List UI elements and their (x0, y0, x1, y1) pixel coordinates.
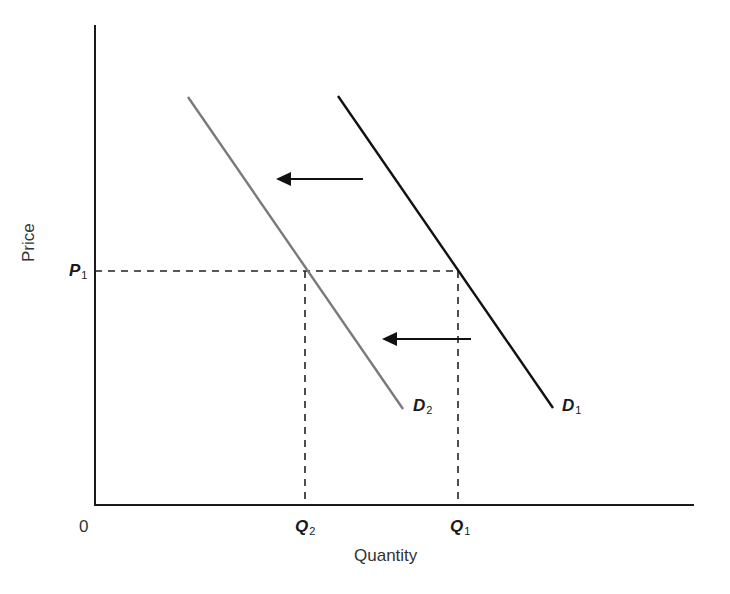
q2-label: Q2 (295, 518, 315, 537)
d2-label-sub: 2 (426, 404, 432, 416)
x-axis-label: Quantity (354, 547, 417, 564)
q1-label-sub: 1 (464, 525, 470, 537)
y-axis-label: Price (20, 223, 37, 262)
d2-label-main: D (413, 396, 425, 415)
shift-arrow-upper (276, 172, 363, 186)
d1-label: D1 (562, 397, 581, 416)
q2-label-main: Q (295, 517, 308, 536)
q1-label-main: Q (450, 517, 463, 536)
p1-label-main: P (69, 261, 80, 280)
d1-label-main: D (562, 396, 574, 415)
origin-label: 0 (79, 518, 88, 535)
q2-label-sub: 2 (309, 525, 315, 537)
p1-label-sub: 1 (81, 269, 87, 281)
diagram-canvas (0, 0, 730, 594)
d1-label-sub: 1 (575, 404, 581, 416)
shift-arrow-lower (382, 332, 471, 346)
d2-label: D2 (413, 397, 432, 416)
p1-label: P1 (69, 262, 87, 281)
q1-label: Q1 (450, 518, 470, 537)
